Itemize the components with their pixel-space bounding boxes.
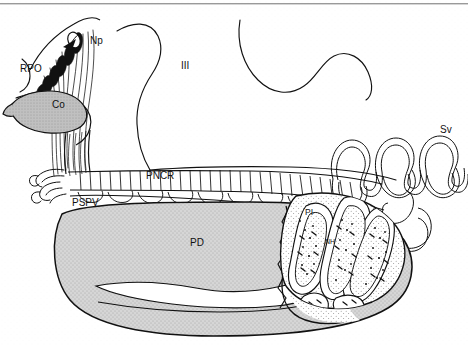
label-sv: Sv: [440, 124, 452, 135]
anatomical-figure: Np RPO Co III Sv PNCR PSPV PD PI NH: [0, 0, 468, 345]
label-np: Np: [90, 35, 103, 46]
label-rpo: RPO: [20, 63, 42, 74]
label-co: Co: [52, 99, 65, 110]
label-pi: PI: [305, 207, 313, 217]
top-rule: [0, 3, 468, 4]
pituitary-diagram-svg: Np RPO Co III Sv PNCR PSPV PD PI NH: [0, 0, 468, 345]
label-pspv: PSPV: [72, 197, 99, 208]
label-pd: PD: [190, 237, 204, 248]
label-nh: NH: [325, 238, 335, 245]
label-third-ventricle: III: [181, 60, 189, 71]
label-pncr: PNCR: [146, 170, 174, 181]
